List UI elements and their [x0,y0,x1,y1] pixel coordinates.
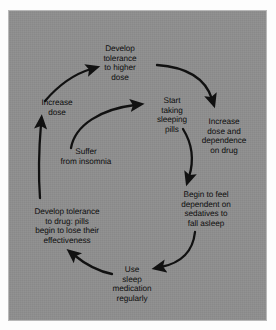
node-line: dose [86,73,154,83]
node-line: Begin to feel [165,190,247,200]
node-line: Start [144,96,200,106]
arrow-start-taking-to-begin-to-feel [183,129,192,177]
node-develop-tolerance-to-drug: Develop tolerance to drug: pills begin t… [15,207,119,245]
arrow-develop-tolerance-higher-to-increase-dependence [157,65,212,99]
node-suffer-from-insomnia: Suffer from insomnia [46,147,126,166]
node-line: on drug [193,146,255,156]
node-line: regularly [97,294,167,304]
node-line: to higher [86,63,154,73]
node-line: dependence [193,136,255,146]
node-line: Use [97,265,167,275]
node-increase-dose-and-dependence: Increase dose and dependence on drug [193,117,255,155]
node-line: Increase [193,117,255,127]
node-line: begin to lose their [15,226,119,236]
node-line: effectiveness [15,236,119,246]
node-line: sleeping [144,115,200,125]
node-line: medication [97,284,167,294]
node-line: Develop [86,44,154,54]
node-line: taking [144,106,200,116]
node-line: pills [144,125,200,135]
node-line: Suffer [46,147,126,157]
arrow-develop-tolerance-drug-to-increase-dose [39,124,41,198]
arrow-begin-to-feel-to-use-sleep [161,232,195,267]
arrow-increase-dose-to-develop-tolerance-higher [45,69,91,101]
node-use-sleep-medication-regularly: Use sleep medication regularly [97,265,167,303]
node-line: from insomnia [46,157,126,167]
diagram-panel: Develop tolerance to higher dose Start t… [9,11,266,320]
node-line: dependent on [165,200,247,210]
node-line: to drug: pills [15,217,119,227]
node-line: tolerance [86,54,154,64]
figure-root: Develop tolerance to higher dose Start t… [0,0,276,330]
node-line: Increase [26,98,88,108]
node-line: sedatives to [165,209,247,219]
node-line: dose and [193,127,255,137]
node-line: Develop tolerance [15,207,119,217]
node-line: fall asleep [165,219,247,229]
node-line: sleep [97,275,167,285]
node-develop-tolerance-higher-dose: Develop tolerance to higher dose [86,44,154,82]
node-line: dose [26,108,88,118]
node-begin-to-feel-dependent: Begin to feel dependent on sedatives to … [165,190,247,228]
node-start-taking-sleeping-pills: Start taking sleeping pills [144,96,200,134]
node-increase-dose: Increase dose [26,98,88,117]
